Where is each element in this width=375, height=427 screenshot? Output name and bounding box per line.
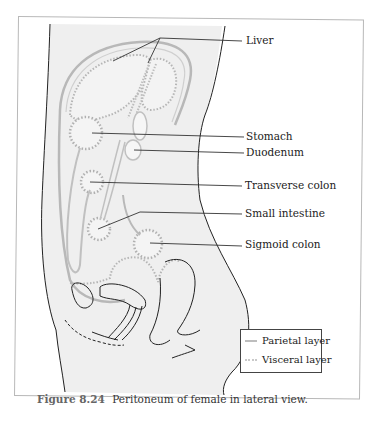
pancreas (133, 112, 147, 140)
label-small-intestine: Small intestine (245, 207, 325, 219)
visceral-line-swatch (245, 359, 257, 361)
legend-label: Visceral layer (262, 354, 332, 365)
figure-caption: Figure 8.24 Peritoneum of female in late… (37, 393, 308, 405)
label-transverse-colon: Transverse colon (245, 179, 336, 191)
legend: Parietal layer Visceral layer (240, 329, 322, 373)
legend-item-visceral: Visceral layer (245, 354, 332, 365)
textbook-page: Liver Stomach Duodenum Transverse colon … (0, 0, 375, 427)
figure-number: Figure 8.24 (37, 393, 105, 405)
label-liver: Liver (246, 34, 274, 46)
label-duodenum: Duodenum (246, 146, 304, 158)
legend-label: Parietal layer (262, 335, 330, 346)
legend-item-parietal: Parietal layer (245, 335, 330, 346)
parietal-line-swatch (245, 340, 257, 342)
label-stomach: Stomach (246, 130, 293, 142)
label-sigmoid-colon: Sigmoid colon (245, 238, 321, 250)
caption-text: Peritoneum of female in lateral view. (112, 393, 308, 405)
